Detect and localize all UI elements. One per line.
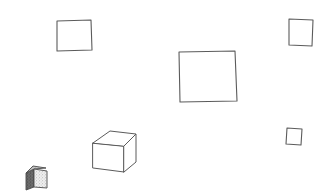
cube-large-front-face (93, 143, 124, 172)
sketch-canvas (0, 0, 334, 195)
cube-small-front-face (34, 169, 47, 188)
canvas-background (0, 0, 334, 195)
shapes-scene (0, 0, 334, 195)
